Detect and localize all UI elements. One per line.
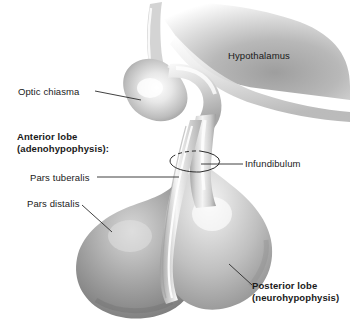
label-optic-chiasma: Optic chiasma (18, 86, 80, 98)
label-posterior-lobe-line1: Posterior lobe (252, 280, 339, 292)
pituitary-diagram: Hypothalamus Optic chiasma Anterior lobe… (0, 0, 350, 328)
label-posterior-lobe-line2: (neurohypophysis) (252, 292, 339, 304)
label-anterior-lobe-line2: (adenohypophysis): (17, 143, 109, 155)
label-pars-distalis: Pars distalis (27, 198, 80, 210)
label-posterior-lobe: Posterior lobe (neurohypophysis) (252, 280, 339, 303)
label-infundibulum: Infundibulum (245, 158, 301, 170)
label-pars-tuberalis: Pars tuberalis (30, 172, 89, 184)
label-anterior-lobe-line1: Anterior lobe (17, 131, 109, 143)
label-hypothalamus: Hypothalamus (228, 50, 290, 62)
label-anterior-lobe: Anterior lobe (adenohypophysis): (17, 131, 109, 154)
